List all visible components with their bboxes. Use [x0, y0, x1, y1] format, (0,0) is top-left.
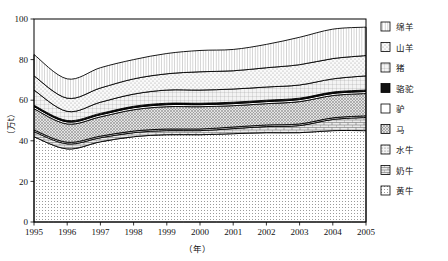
area-bands	[34, 27, 366, 222]
x-tick-label: 2000	[191, 227, 210, 237]
x-tick-label: 1997	[91, 227, 110, 237]
x-tick-label: 1998	[125, 227, 144, 237]
x-tick-label: 2004	[324, 227, 343, 237]
legend-label-7: 奶牛	[396, 166, 414, 176]
legend-label-0: 绵羊	[396, 22, 414, 32]
y-tick-label: 60	[19, 95, 29, 105]
x-tick-label: 2003	[291, 227, 310, 237]
legend-swatch-1	[381, 43, 390, 52]
y-tick-label: 40	[19, 136, 29, 146]
legend-swatch-4	[381, 104, 390, 113]
y-tick-label: 20	[19, 177, 29, 187]
legend-swatch-7	[381, 166, 390, 175]
x-tick-label: 1996	[58, 227, 77, 237]
x-axis-title: （年）	[184, 244, 211, 254]
legend-label-2: 猪	[396, 63, 405, 73]
y-tick-label: 80	[19, 55, 29, 65]
x-tick-label: 2005	[357, 227, 376, 237]
x-tick-label: 2002	[257, 227, 275, 237]
legend-label-1: 山羊	[396, 43, 414, 53]
legend-label-5: 马	[396, 125, 405, 135]
stacked-area-chart: 020406080100 199519961997199819992000200…	[0, 0, 448, 261]
y-tick-label: 100	[15, 14, 29, 24]
legend-swatch-5	[381, 125, 390, 134]
x-tick-label: 2001	[224, 227, 242, 237]
legend-swatch-6	[381, 145, 390, 154]
y-tick-label: 0	[24, 217, 29, 227]
legend-label-4: 驴	[396, 104, 405, 114]
legend-label-6: 水牛	[396, 145, 414, 155]
chart-container: 020406080100 199519961997199819992000200…	[0, 0, 448, 261]
legend-label-8: 黄牛	[396, 186, 414, 196]
legend-swatch-3	[381, 84, 390, 93]
legend-swatch-8	[381, 186, 390, 195]
x-tick-label: 1999	[158, 227, 177, 237]
x-tick-label: 1995	[25, 227, 44, 237]
y-axis-title: （万t）	[6, 109, 16, 139]
y-axis: 020406080100	[15, 14, 35, 227]
legend-label-3: 骆驼	[396, 84, 414, 94]
legend-swatch-2	[381, 63, 390, 72]
x-axis: 1995199619971998199920002001200220032004…	[25, 222, 376, 237]
legend-swatch-0	[381, 22, 390, 31]
legend: 绵羊山羊猪骆驼驴马水牛奶牛黄牛	[381, 22, 414, 196]
